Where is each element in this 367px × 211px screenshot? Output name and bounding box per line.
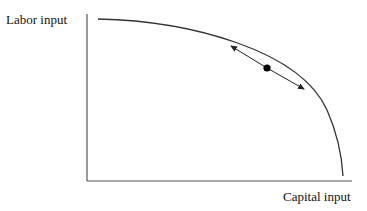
tangent-arrow-down: [267, 68, 304, 89]
frontier-curve: [98, 19, 343, 176]
tangent-arrow-up: [231, 46, 267, 68]
tangent-point: [263, 64, 270, 71]
diagram-canvas: [0, 0, 367, 211]
